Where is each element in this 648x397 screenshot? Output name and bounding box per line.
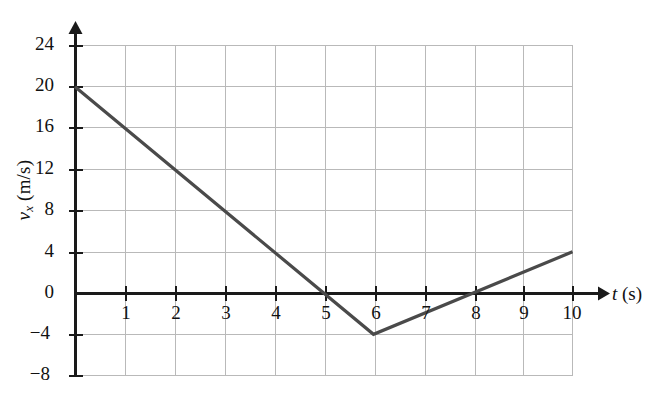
plot-area <box>0 0 648 397</box>
grid-horizontal <box>76 46 573 376</box>
x-tick-label: 3 <box>211 302 241 324</box>
x-tick-label: 2 <box>161 302 191 324</box>
y-tick-label: 8 <box>8 198 54 220</box>
x-tick-label: 1 <box>111 302 141 324</box>
y-tick-label: −4 <box>4 322 50 344</box>
x-tick-label: 4 <box>261 302 291 324</box>
x-tick-label: 9 <box>509 302 539 324</box>
x-tick-label: 8 <box>461 302 491 324</box>
x-axis-variable: t <box>612 283 617 304</box>
x-tick-label: 5 <box>311 302 341 324</box>
y-axis <box>69 21 83 375</box>
y-tick-label: 24 <box>8 33 54 55</box>
x-tick-label: 7 <box>411 302 441 324</box>
y-tick-label: 4 <box>8 240 54 262</box>
y-tick-label: 16 <box>8 115 54 137</box>
velocity-time-graph: vx (m/s) t (s) 24 20 16 12 8 4 0 −4 −8 1… <box>0 0 648 397</box>
y-tick-label: 0 <box>8 281 54 303</box>
x-axis-unit: (s) <box>622 283 642 304</box>
y-tick-label: 20 <box>8 74 54 96</box>
y-tick-label: −8 <box>4 363 50 385</box>
y-axis-label: vx (m/s) <box>13 135 37 245</box>
y-tick-label: 12 <box>8 157 54 179</box>
x-tick-label: 6 <box>361 302 391 324</box>
x-axis-label: t (s) <box>612 283 642 305</box>
x-axis <box>75 287 610 301</box>
x-tick-label: 10 <box>557 302 587 324</box>
